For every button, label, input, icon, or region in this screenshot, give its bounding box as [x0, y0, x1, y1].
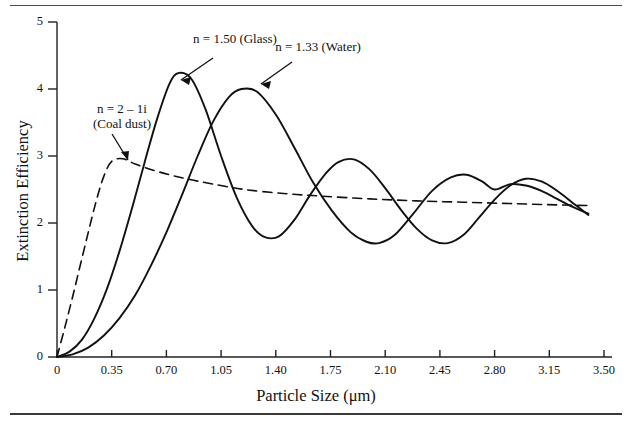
x-tick-label: 2.45 — [415, 363, 465, 378]
x-tick-label: 2.80 — [470, 363, 520, 378]
glass-annotation-arrow — [181, 58, 213, 85]
coal-annotation-arrow — [112, 134, 129, 160]
annotation-water-label: n = 1.33 (Water) — [275, 39, 361, 54]
x-tick-label: 3.15 — [524, 363, 574, 378]
y-axis-ticks — [48, 22, 57, 357]
x-tick-label: 0.35 — [87, 363, 137, 378]
x-tick-label: 1.05 — [196, 363, 246, 378]
axes-group — [48, 22, 612, 357]
annotation-coal-dust: n = 2 – 1i (Coal dust) — [62, 102, 182, 132]
annotation-coal-line1: n = 2 – 1i — [62, 102, 182, 117]
x-tick-label: 0.70 — [141, 363, 191, 378]
x-axis-title: Particle Size (μm) — [0, 386, 632, 406]
y-tick-label: 5 — [0, 14, 43, 29]
y-tick-label: 1 — [0, 282, 43, 297]
y-axis-title: Extinction Efficiency — [13, 91, 33, 291]
figure-container: Extinction Efficiency Particle Size (μm)… — [0, 0, 632, 426]
y-tick-label: 2 — [0, 215, 43, 230]
x-tick-label: 2.10 — [360, 363, 410, 378]
x-tick-label: 1.40 — [251, 363, 301, 378]
x-axis-ticks — [57, 350, 604, 357]
y-tick-label: 3 — [0, 148, 43, 163]
x-tick-label: 1.75 — [306, 363, 356, 378]
y-tick-label: 0 — [0, 349, 43, 364]
x-tick-label: 0 — [32, 363, 82, 378]
annotation-water: n = 1.33 (Water) — [238, 40, 398, 55]
water-annotation-arrow — [261, 62, 292, 89]
y-tick-label: 4 — [0, 81, 43, 96]
x-tick-label: 3.50 — [579, 363, 629, 378]
annotation-coal-line2: (Coal dust) — [62, 117, 182, 132]
